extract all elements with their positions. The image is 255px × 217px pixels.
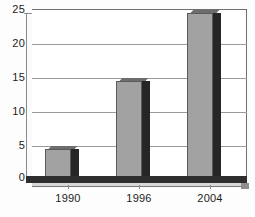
x-tick-mark-1 xyxy=(68,185,69,189)
y-axis: 25 20 15 10 5 0 xyxy=(0,0,25,217)
bar-front-face-1996 xyxy=(116,81,142,183)
y-tick-label-10: 10 xyxy=(3,106,25,117)
y-tick-label-5: 5 xyxy=(3,140,25,151)
y-tick-label-15: 15 xyxy=(3,72,25,83)
plot-area xyxy=(32,9,247,183)
bar-side-face-1996 xyxy=(142,81,150,183)
y-tick-label-0: 0 xyxy=(3,172,25,183)
bar-side-face-2004 xyxy=(213,13,221,183)
x-tick-label-2004: 2004 xyxy=(182,192,238,204)
axis-floor-bevel xyxy=(241,183,249,189)
y-tick-label-25: 25 xyxy=(3,4,25,15)
x-tick-mark-2 xyxy=(139,185,140,189)
bar-front-face-2004 xyxy=(187,13,213,183)
x-axis: 1990 1996 2004 xyxy=(32,192,247,212)
x-tick-label-1996: 1996 xyxy=(111,192,167,204)
bar-1996 xyxy=(116,81,142,183)
x-tick-mark-3 xyxy=(210,185,211,189)
x-tick-label-1990: 1990 xyxy=(40,192,96,204)
axis-baseline xyxy=(26,176,247,183)
y-tick-label-20: 20 xyxy=(3,38,25,49)
bar-2004 xyxy=(187,13,213,183)
bar-chart: 25 20 15 10 5 0 xyxy=(0,0,255,217)
